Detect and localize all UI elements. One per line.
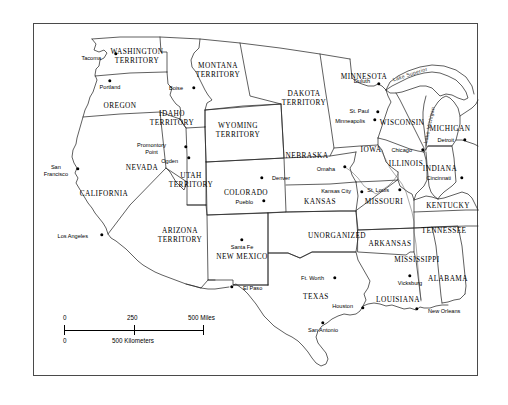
shoreline-lake-huron <box>460 100 478 116</box>
border-az-nm <box>206 205 215 280</box>
border-ut-wy <box>205 127 206 162</box>
border-ne-east <box>350 152 356 182</box>
border-ms-al <box>414 227 442 303</box>
border-nv-ut <box>166 128 187 182</box>
historical-map-figure: WASHINGTONTERRITORYOREGONIDAHOTERRITORYM… <box>0 0 508 405</box>
scale-label-miles-0: 0 <box>63 314 67 321</box>
border-ia-east <box>378 145 398 172</box>
border-dakota-east <box>320 54 334 156</box>
border-nv-az <box>166 168 187 190</box>
border-ca-nv <box>108 112 166 234</box>
border-nm-east <box>207 213 268 285</box>
border-wa-or <box>95 72 167 76</box>
scale-bar: 0 250 500 Miles 0 500 Kilometers <box>64 313 204 357</box>
coastline-pacific <box>72 39 229 289</box>
border-wyoming <box>205 104 284 162</box>
border-kentucky <box>414 192 478 210</box>
border-id-south2 <box>180 119 186 128</box>
border-nm-south <box>208 280 268 285</box>
border-arkansas <box>358 228 414 255</box>
border-texas <box>233 252 370 366</box>
scale-label-km-500: 500 Kilometers <box>112 337 154 344</box>
shoreline-wisconsin-east <box>396 93 424 152</box>
scale-tick-250 <box>134 325 135 335</box>
border-ky-tn <box>414 210 478 212</box>
border-id-mt <box>191 39 212 110</box>
scale-tick-500 <box>203 325 204 335</box>
scale-label-miles-250: 250 <box>127 314 138 321</box>
border-ks-east <box>356 182 358 211</box>
outline-michigan-lower <box>424 96 460 152</box>
border-wa-id <box>160 37 167 72</box>
border-la-coast <box>363 303 448 310</box>
border-mt-dakota <box>240 43 281 104</box>
border-or-south <box>83 112 180 119</box>
border-ut-co-south <box>187 182 206 205</box>
scale-label-km-0: 0 <box>63 337 67 344</box>
border-mn-ia <box>334 138 378 148</box>
border-gulf-al <box>442 294 465 303</box>
border-unorganized <box>268 211 358 258</box>
shoreline-lake-superior-north <box>386 65 474 94</box>
border-mn-wi <box>378 90 391 138</box>
scale-tick-0 <box>64 325 65 335</box>
northern-border <box>92 37 350 59</box>
border-missouri <box>356 180 414 230</box>
border-or-id <box>167 72 181 119</box>
shoreline-lake-michigan <box>423 96 426 150</box>
scale-label-miles-500: 500 Miles <box>188 314 215 321</box>
river-mississippi <box>378 145 421 301</box>
border-il-in <box>426 152 438 199</box>
border-ia-south <box>356 172 398 182</box>
border-ne-kansas <box>286 182 356 185</box>
shoreline-lake-erie <box>456 140 478 146</box>
border-in-oh <box>428 146 456 199</box>
border-colorado <box>206 158 286 215</box>
border-minnesota <box>350 59 386 90</box>
border-az-south <box>186 280 208 288</box>
border-dakota-nebraska <box>281 104 356 158</box>
border-illinois <box>378 138 427 200</box>
